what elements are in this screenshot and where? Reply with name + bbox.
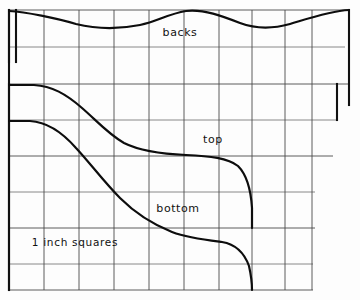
label-scale-note: 1 inch squares [32, 236, 118, 248]
pattern-drawing-svg: backs top bottom 1 inch squares [0, 0, 360, 300]
frame-registration-marks [9, 10, 349, 290]
diagram-canvas: backs top bottom 1 inch squares [0, 0, 360, 300]
label-top: top [203, 133, 223, 146]
grid-horizontal-lines [9, 10, 349, 290]
label-backs: backs [163, 26, 198, 39]
grid-vertical-lines [9, 10, 312, 290]
label-bottom: bottom [156, 202, 199, 215]
